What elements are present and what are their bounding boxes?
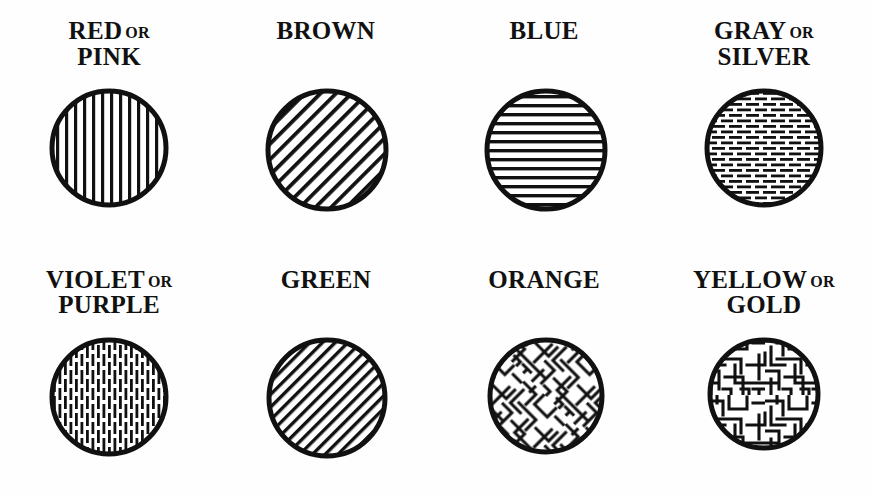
- legend-primary-label: GRAY: [714, 17, 787, 44]
- legend-caption: REDOR PINK: [0, 18, 218, 84]
- swatch-circle: [52, 91, 166, 205]
- legend-swatch-violet-purple: [47, 335, 171, 459]
- legend-swatch-green: [264, 335, 390, 461]
- legend-primary-label: GREEN: [281, 266, 371, 293]
- legend-conjunction-label: [375, 24, 378, 41]
- legend-caption-line-1: YELLOWOR: [655, 267, 873, 293]
- legend-caption: YELLOWOR GOLD: [655, 267, 873, 333]
- legend-caption-line-1: BLUE: [437, 18, 655, 44]
- legend-caption-line-1: GREEN: [218, 267, 436, 293]
- legend-caption: BROWN: [218, 18, 436, 84]
- legend-swatch-orange: [485, 335, 607, 457]
- legend-caption: ORANGE: [437, 267, 655, 333]
- swatch-circle: [490, 340, 602, 452]
- legend-conjunction-label: OR: [145, 273, 172, 290]
- legend-swatch-gray-silver: [702, 86, 826, 210]
- legend-item-brown[interactable]: BROWN: [218, 0, 436, 249]
- legend-swatch-brown: [263, 86, 391, 214]
- legend-secondary-label: SILVER: [655, 44, 873, 70]
- legend-secondary-label: PINK: [0, 44, 218, 70]
- swatch-circle: [52, 340, 166, 454]
- legend-secondary-label: PURPLE: [0, 292, 218, 318]
- legend-sheet: REDOR PINK BROWN BLUE: [0, 0, 873, 497]
- legend-primary-label: VIOLET: [46, 266, 145, 293]
- legend-conjunction-label: [371, 273, 374, 290]
- legend-caption: GREEN: [218, 267, 436, 333]
- swatch-circle: [487, 91, 605, 209]
- legend-swatch-wrap: [47, 335, 171, 459]
- legend-caption: BLUE: [437, 18, 655, 84]
- legend-caption: VIOLETOR PURPLE: [0, 267, 218, 333]
- legend-swatch-wrap: [485, 335, 607, 457]
- legend-caption-line-1: GRAYOR: [655, 18, 873, 44]
- swatch-circle: [710, 340, 818, 448]
- legend-primary-label: BROWN: [277, 17, 376, 44]
- legend-item-blue[interactable]: BLUE: [437, 0, 655, 249]
- legend-swatch-yellow-gold: [705, 335, 823, 453]
- legend-item-violet-purple[interactable]: VIOLETOR PURPLE: [0, 249, 218, 497]
- swatch-circle: [268, 91, 386, 209]
- legend-item-red-pink[interactable]: REDOR PINK: [0, 0, 218, 249]
- legend-item-orange[interactable]: ORANGE: [437, 249, 655, 497]
- legend-conjunction-label: OR: [122, 24, 149, 41]
- legend-conjunction-label: OR: [807, 273, 834, 290]
- legend-conjunction-label: [579, 24, 582, 41]
- legend-swatch-blue: [482, 86, 610, 214]
- swatch-circle: [707, 91, 821, 205]
- legend-swatch-wrap: [702, 86, 826, 210]
- legend-item-green[interactable]: GREEN: [218, 249, 436, 497]
- legend-grid: REDOR PINK BROWN BLUE: [0, 0, 873, 497]
- legend-swatch-wrap: [47, 86, 171, 210]
- legend-swatch-wrap: [264, 335, 390, 461]
- legend-item-gray-silver[interactable]: GRAYOR SILVER: [655, 0, 873, 249]
- legend-caption-line-1: BROWN: [218, 18, 436, 44]
- legend-caption: GRAYOR SILVER: [655, 18, 873, 84]
- legend-swatch-wrap: [705, 335, 823, 453]
- legend-primary-label: YELLOW: [693, 266, 807, 293]
- legend-caption-line-1: REDOR: [0, 18, 218, 44]
- legend-swatch-wrap: [263, 86, 391, 214]
- legend-caption-line-1: ORANGE: [437, 267, 655, 293]
- legend-caption-line-1: VIOLETOR: [0, 267, 218, 293]
- legend-swatch-wrap: [482, 86, 610, 214]
- legend-item-yellow-gold[interactable]: YELLOWOR GOLD: [655, 249, 873, 497]
- legend-primary-label: ORANGE: [488, 266, 600, 293]
- legend-primary-label: BLUE: [509, 17, 578, 44]
- legend-conjunction-label: [600, 273, 603, 290]
- swatch-circle: [269, 340, 385, 456]
- legend-primary-label: RED: [69, 17, 123, 44]
- legend-swatch-red-pink: [47, 86, 171, 210]
- legend-secondary-label: GOLD: [655, 292, 873, 318]
- legend-conjunction-label: OR: [786, 24, 813, 41]
